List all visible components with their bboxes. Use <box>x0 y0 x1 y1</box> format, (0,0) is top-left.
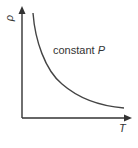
x-axis-label: T <box>119 122 126 134</box>
constant-pressure-curve <box>33 13 124 108</box>
x-axis <box>22 115 132 122</box>
annotation-text: constant <box>53 44 95 56</box>
annotation-variable: P <box>98 44 105 56</box>
curve-annotation: constant P <box>53 44 105 56</box>
density-temperature-chart <box>0 0 138 148</box>
x-axis-arrow-icon <box>124 115 132 122</box>
y-axis <box>19 6 26 118</box>
y-axis-label: ρ <box>3 15 15 21</box>
y-axis-arrow-icon <box>19 6 26 14</box>
